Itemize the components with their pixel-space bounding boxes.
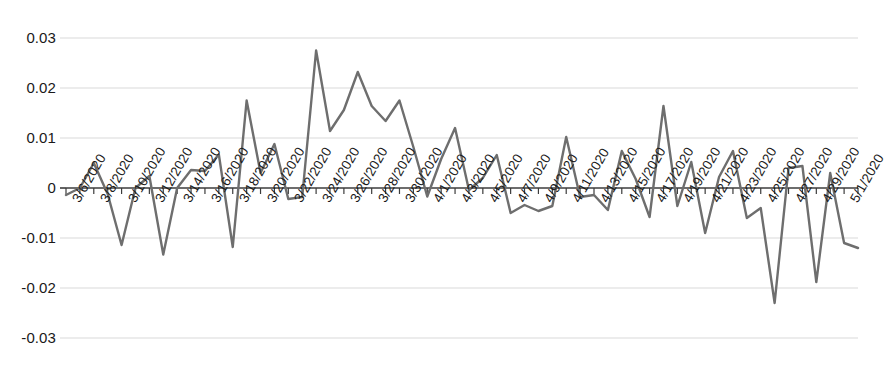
y-axis-tick-label: -0.03 bbox=[0, 330, 56, 345]
y-axis-tick-label: 0.03 bbox=[0, 30, 56, 45]
y-axis-tick-label: 0 bbox=[0, 180, 56, 195]
y-axis-tick-label: 0.02 bbox=[0, 80, 56, 95]
y-axis-tick-group bbox=[60, 38, 66, 338]
y-axis-tick-label: 0.01 bbox=[0, 130, 56, 145]
y-axis-tick-label: -0.01 bbox=[0, 230, 56, 245]
y-axis-tick-label: -0.02 bbox=[0, 280, 56, 295]
